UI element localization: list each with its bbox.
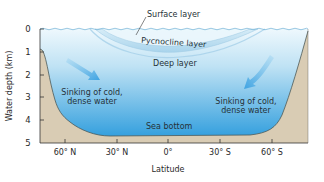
deep-layer-label: Deep layer <box>153 60 197 68</box>
x-tick-60s: 60° S <box>261 149 283 157</box>
x-axis-title: Latitude <box>152 166 185 174</box>
sea-bottom-label: Sea bottom <box>146 123 192 131</box>
x-tick-60n: 60° N <box>54 149 77 157</box>
y-axis-title: Water depth (km) <box>6 51 14 122</box>
y-tick-3: 3 <box>23 93 33 102</box>
ocean-layers-diagram: 0 1 2 3 4 5 Water depth (km) 60° N 30° N… <box>0 0 324 182</box>
sinking-right-line1: Sinking of cold, <box>215 97 276 106</box>
x-tick-30n: 30° N <box>106 149 129 157</box>
sinking-right-label: Sinking of cold, dense water <box>215 97 276 115</box>
sinking-left-line2: dense water <box>61 97 122 106</box>
y-tick-1: 1 <box>23 48 33 57</box>
x-tick-30s: 30° S <box>209 149 231 157</box>
y-tick-5: 5 <box>23 139 33 148</box>
surface-layer-label: Surface layer <box>147 11 200 19</box>
sinking-left-label: Sinking of cold, dense water <box>61 88 122 106</box>
sinking-left-line1: Sinking of cold, <box>61 88 122 97</box>
y-tick-4: 4 <box>23 116 33 125</box>
y-tick-2: 2 <box>23 71 33 80</box>
sinking-right-line2: dense water <box>215 106 276 115</box>
x-tick-0: 0° <box>163 149 172 157</box>
y-tick-0: 0 <box>23 25 33 34</box>
